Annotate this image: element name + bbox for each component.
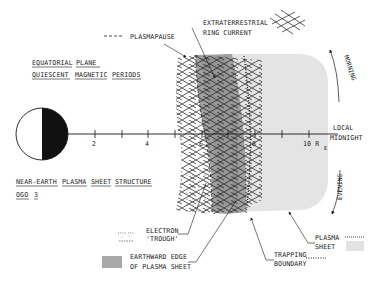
subtitle-structure: STRUCTURE — [115, 178, 152, 186]
title-quiescent: QUIESCENT — [32, 71, 69, 79]
title-block: EQUATORIAL PLANE QUIESCENT MAGNETIC PERI… — [32, 59, 141, 79]
earthward-edge-label-1: EARTHWARD EDGE — [130, 253, 187, 261]
tick-label-6: 6 — [199, 140, 203, 148]
subtitle-near-earth: NEAR-EARTH — [16, 178, 57, 186]
title-magnetic: MAGNETIC — [75, 71, 108, 79]
morning-indicator: MORNING — [330, 50, 358, 102]
trough-label: 'TROUGH' — [146, 235, 179, 243]
plasma-label: PLASMA — [315, 234, 339, 242]
midnight-label: MIDNIGHT — [330, 134, 363, 142]
plasmapause-legend: PLASMAPAUSE — [104, 33, 186, 57]
gray-swatch-icon — [102, 256, 122, 268]
subtitle-plasma: PLASMA — [62, 178, 86, 186]
dotted-swatch-icon — [118, 233, 134, 241]
electron-label: ELECTRON — [146, 227, 179, 235]
title-plane: PLANE — [76, 59, 96, 67]
unit-subscript: E — [324, 145, 327, 151]
earth-icon — [16, 108, 68, 160]
ring-current-region — [176, 55, 262, 214]
trapping-label: TRAPPING — [274, 251, 307, 259]
sheet-label: SHEET — [315, 243, 335, 251]
tick-label-8: 8 — [252, 140, 256, 148]
plasmapause-label: PLASMAPAUSE — [130, 33, 175, 41]
morning-label: MORNING — [343, 54, 358, 81]
title-periods: PERIODS — [112, 71, 141, 79]
subtitle-sheet: SHEET — [91, 178, 111, 186]
ring-current-label-2: RING CURRENT — [203, 29, 252, 37]
ring-current-label-1: EXTRATERRESTRIAL — [203, 19, 268, 27]
local-label: LOCAL — [333, 124, 353, 132]
tick-label-10: 10 R — [303, 140, 319, 148]
boundary-label: BOUNDARY — [274, 260, 307, 268]
title-equatorial: EQUATORIAL — [32, 59, 73, 67]
plasma-sheet-diagram: 2 4 6 8 10 R E LOCAL MIDNIGHT EQUATORIAL… — [0, 0, 380, 284]
plasma-sheet-legend: PLASMA SHEET — [289, 212, 364, 251]
subtitle-block: NEAR-EARTH PLASMA SHEET STRUCTURE OGO 3 — [16, 178, 152, 199]
subtitle-ogo: OGO — [16, 191, 28, 199]
tick-label-2: 2 — [92, 140, 96, 148]
subtitle-3: 3 — [34, 191, 38, 199]
crosshatch-swatch-icon — [270, 10, 305, 34]
earthward-edge-label-2: OF PLASMA SHEET — [130, 263, 191, 271]
tick-label-4: 4 — [145, 140, 149, 148]
evening-label: EVENING — [336, 174, 343, 200]
light-gray-swatch-icon — [346, 241, 364, 251]
evening-indicator: EVENING — [332, 170, 343, 214]
